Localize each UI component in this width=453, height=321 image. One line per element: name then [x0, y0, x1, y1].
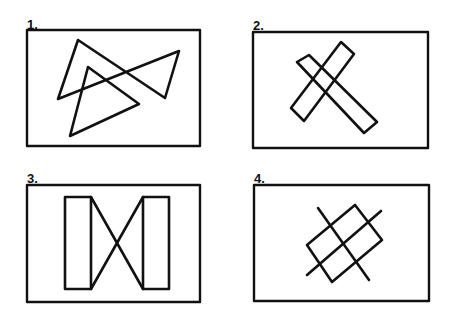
panel-1 [27, 30, 200, 146]
left-rectangle [65, 197, 91, 289]
panel-4 [254, 185, 429, 301]
figure-canvas [0, 0, 453, 321]
panel-2 [253, 32, 428, 148]
panel-2-frame [253, 32, 428, 148]
panel-3 [27, 185, 200, 302]
panel-1-frame [27, 30, 200, 146]
triangle-shape [70, 67, 139, 136]
crossing-line [307, 211, 381, 275]
bar-shape [291, 42, 354, 121]
bar-shape [297, 55, 377, 133]
panel-3-frame [27, 185, 200, 302]
right-rectangle [143, 197, 169, 289]
